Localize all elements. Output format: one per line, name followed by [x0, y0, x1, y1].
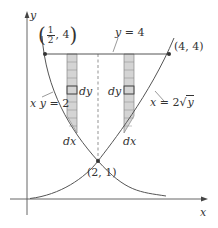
point-label-half-4: (12, 4): [38, 25, 77, 45]
y-axis-label: y: [30, 10, 36, 21]
right-dy-label: dy: [108, 86, 121, 97]
point-label-4-4: (4, 4): [174, 41, 204, 52]
left-dy-label: dy: [79, 86, 92, 97]
left-dx-label: dx: [63, 136, 76, 147]
parabola-label: x = 2√y: [150, 97, 194, 108]
point-label-2-1: (2, 1): [87, 167, 117, 178]
y-axis-arrow-icon: [25, 11, 30, 18]
right-strip: [124, 54, 134, 133]
right-dx-label: dx: [123, 136, 136, 147]
point-2-1: [96, 159, 100, 163]
x-axis-label: x: [200, 207, 206, 218]
line-y4-label: y = 4: [115, 27, 144, 38]
plot-canvas: [0, 0, 218, 228]
x-axis-arrow-icon: [201, 197, 208, 202]
point-4-4: [167, 52, 171, 56]
leader-y4: [113, 38, 118, 52]
point-half-4: [43, 52, 47, 56]
region-bounded-figure: y x (12, 4) y = 4 (4, 4) x y = 2 x = 2√y…: [0, 0, 218, 228]
hyperbola-label: x y = 2: [30, 98, 69, 109]
